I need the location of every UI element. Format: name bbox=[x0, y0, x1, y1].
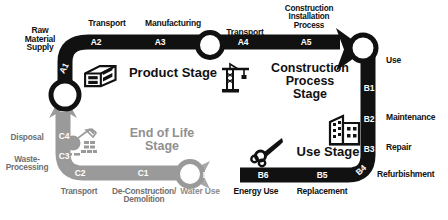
lifecycle-diagram: Raw Material Supply Transport Manufactur… bbox=[0, 0, 448, 220]
wrench-gears-icon bbox=[251, 138, 283, 166]
module-code-a2: A2 bbox=[84, 38, 108, 47]
module-code-a4: A4 bbox=[231, 38, 255, 47]
module-label-c3: Waste- Processing bbox=[3, 155, 51, 172]
module-label-b5: Replacement bbox=[287, 187, 357, 196]
module-label-a4: Transport bbox=[216, 28, 274, 37]
module-label-a3: Manufacturing bbox=[136, 19, 210, 28]
module-label-a2: Transport bbox=[77, 19, 137, 28]
module-label-b6: Energy Use bbox=[225, 187, 287, 196]
node-circle-start bbox=[51, 81, 79, 109]
module-label-b4: Refurbishment bbox=[377, 170, 448, 179]
stage-name-end-of-life: End of Life Stage bbox=[117, 127, 207, 153]
module-code-b2: B2 bbox=[357, 115, 381, 124]
stage-name-construction: Construction Process Stage bbox=[247, 62, 373, 101]
module-label-a1: Raw Material Supply bbox=[14, 26, 66, 52]
module-label-c1: De-Construction/ Demolition bbox=[104, 187, 184, 204]
stage-name-use: Use Stage bbox=[285, 145, 371, 159]
module-code-b7: B7 bbox=[196, 171, 220, 180]
module-label-b2: Maintenance bbox=[386, 113, 448, 122]
module-code-c1: C1 bbox=[131, 169, 155, 178]
module-code-b5: B5 bbox=[310, 171, 334, 180]
module-label-b3: Repair bbox=[386, 143, 442, 152]
module-code-a5: A5 bbox=[294, 38, 318, 47]
building-icon bbox=[329, 116, 360, 146]
bricks-icon bbox=[85, 66, 115, 86]
module-label-c4: Disposal bbox=[3, 133, 51, 141]
module-code-a3: A3 bbox=[148, 38, 172, 47]
module-label-b1: Use bbox=[386, 56, 442, 65]
module-code-c4: C4 bbox=[52, 132, 76, 141]
module-label-c2: Transport bbox=[50, 187, 108, 195]
node-circle-construction-use bbox=[350, 35, 376, 61]
module-code-b6: B6 bbox=[251, 171, 275, 180]
module-label-a5: Construction Installation Process bbox=[274, 5, 344, 30]
stage-name-product: Product Stage bbox=[119, 66, 227, 80]
module-code-c3: C3 bbox=[52, 152, 76, 161]
module-code-c2: C2 bbox=[68, 169, 92, 178]
